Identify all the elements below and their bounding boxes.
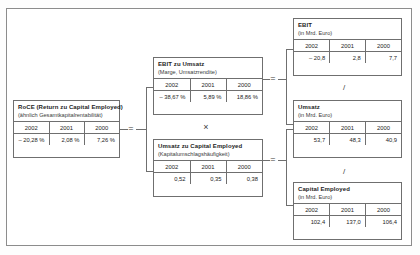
bracket-middle-vertical	[146, 87, 147, 172]
operator-times: ×	[200, 123, 212, 132]
box-ebit-zu-umsatz-table: 2002 2001 2000 – 38,67 % 5,89 % 18,86 %	[154, 79, 262, 102]
cell-value: 137,0	[330, 216, 366, 228]
cell-value: 0,35	[190, 173, 226, 185]
box-ebit-subtitle: (in Mrd. Euro)	[298, 30, 397, 38]
bracket-upper-right-top-arm	[286, 49, 293, 50]
box-ebit-table: 2002 2001 2000 – 20,8 2,8 7,7	[294, 40, 401, 63]
table-row-values: 53,7 48,3 40,9	[294, 134, 401, 146]
cell-value: 2,08 %	[49, 134, 84, 146]
table-row-values: – 20,28 % 2,08 % 7,26 %	[14, 134, 119, 146]
box-umsatz: Umsatz (in Mrd. Euro) 2002 2001 2000 53,…	[293, 100, 402, 158]
connector-equals-to-bracket	[136, 129, 146, 130]
cell-value: 106,4	[365, 216, 401, 228]
cell-value: 48,3	[330, 134, 366, 146]
box-roce-header: RoCE (Return zu Capital Employed) (ähnli…	[14, 101, 119, 122]
operator-divide-upper: /	[339, 83, 349, 92]
cell-year: 2000	[365, 40, 401, 52]
connector-equals-to-bracket-upper	[278, 79, 286, 80]
cell-value: 53,7	[294, 134, 330, 146]
box-capital-employed: Capital Employed (in Mrd. Euro) 2002 200…	[293, 182, 402, 240]
cell-year: 2002	[294, 204, 330, 216]
box-umsatz-zu-capital-employed-title: Umsatz zu Capital Employed	[158, 143, 258, 151]
cell-value: – 20,8	[294, 52, 330, 64]
cell-year: 2000	[365, 204, 401, 216]
bracket-lower-right-vertical	[286, 129, 287, 206]
table-row-years: 2002 2001 2000	[294, 204, 401, 216]
cell-year: 2002	[294, 122, 330, 134]
cell-year: 2000	[84, 122, 119, 134]
box-roce: RoCE (Return zu Capital Employed) (ähnli…	[13, 100, 120, 158]
box-umsatz-zu-capital-employed-header: Umsatz zu Capital Employed (Kapitalumsch…	[154, 140, 262, 161]
box-ebit-zu-umsatz: EBIT zu Umsatz (Marge, Umsatzrendite) 20…	[153, 57, 263, 115]
cell-year: 2000	[226, 79, 262, 91]
box-ebit-header: EBIT (in Mrd. Euro)	[294, 19, 401, 40]
cell-value: 5,89 %	[190, 91, 226, 103]
bracket-upper-right-vertical	[286, 49, 287, 125]
box-roce-title: RoCE (Return zu Capital Employed)	[18, 104, 115, 112]
box-ebit-title: EBIT	[298, 22, 397, 30]
cell-value: 40,9	[365, 134, 401, 146]
cell-year: 2002	[154, 161, 190, 173]
box-capital-employed-subtitle: (in Mrd. Euro)	[298, 194, 397, 202]
cell-year: 2001	[330, 122, 366, 134]
box-umsatz-zu-capital-employed: Umsatz zu Capital Employed (Kapitalumsch…	[153, 139, 263, 197]
box-capital-employed-header: Capital Employed (in Mrd. Euro)	[294, 183, 401, 204]
cell-value: 0,38	[226, 173, 262, 185]
bracket-middle-top-arm	[146, 87, 153, 88]
operator-equals-lower-right: =	[268, 155, 278, 164]
box-umsatz-title: Umsatz	[298, 104, 397, 112]
operator-equals-upper-right: =	[268, 74, 278, 83]
cell-year: 2001	[330, 40, 366, 52]
box-umsatz-zu-capital-employed-subtitle: (Kapitalumschlagshäufigkeit)	[158, 151, 258, 159]
bracket-middle-bottom-arm	[146, 171, 153, 172]
cell-year: 2001	[330, 204, 366, 216]
cell-year: 2002	[154, 79, 190, 91]
bracket-lower-right-top-arm	[286, 129, 293, 130]
box-ebit-zu-umsatz-header: EBIT zu Umsatz (Marge, Umsatzrendite)	[154, 58, 262, 79]
cell-year: 2001	[190, 161, 226, 173]
bracket-upper-right-bottom-arm	[286, 124, 293, 125]
cell-value: 2,8	[330, 52, 366, 64]
cell-year: 2000	[226, 161, 262, 173]
table-row-years: 2002 2001 2000	[294, 122, 401, 134]
box-umsatz-zu-capital-employed-table: 2002 2001 2000 0,52 0,35 0,38	[154, 161, 262, 184]
box-capital-employed-table: 2002 2001 2000 102,4 137,0 106,4	[294, 204, 401, 227]
box-ebit: EBIT (in Mrd. Euro) 2002 2001 2000 – 20,…	[293, 18, 402, 76]
diagram-canvas: = × = = / / RoCE (Return zu Capital Empl…	[0, 0, 420, 255]
box-roce-table: 2002 2001 2000 – 20,28 % 2,08 % 7,26 %	[14, 122, 119, 145]
cell-value: 7,26 %	[84, 134, 119, 146]
table-row-years: 2002 2001 2000	[294, 40, 401, 52]
table-row-years: 2002 2001 2000	[154, 161, 262, 173]
cell-year: 2001	[49, 122, 84, 134]
cell-year: 2001	[190, 79, 226, 91]
box-ebit-zu-umsatz-title: EBIT zu Umsatz	[158, 61, 258, 69]
box-roce-subtitle: (ähnlich Gesamtkapitalrentabilität)	[18, 112, 115, 120]
box-ebit-zu-umsatz-subtitle: (Marge, Umsatzrendite)	[158, 69, 258, 77]
box-umsatz-table: 2002 2001 2000 53,7 48,3 40,9	[294, 122, 401, 145]
cell-value: 7,7	[365, 52, 401, 64]
cell-value: – 20,28 %	[14, 134, 49, 146]
box-capital-employed-title: Capital Employed	[298, 186, 397, 194]
operator-equals-left: =	[126, 124, 136, 133]
cell-year: 2002	[14, 122, 49, 134]
connector-equals-to-bracket-lower	[278, 160, 286, 161]
table-row-values: 102,4 137,0 106,4	[294, 216, 401, 228]
box-umsatz-header: Umsatz (in Mrd. Euro)	[294, 101, 401, 122]
cell-value: 102,4	[294, 216, 330, 228]
bracket-lower-right-bottom-arm	[286, 205, 293, 206]
table-row-years: 2002 2001 2000	[14, 122, 119, 134]
table-row-years: 2002 2001 2000	[154, 79, 262, 91]
cell-value: 18,86 %	[226, 91, 262, 103]
operator-divide-lower: /	[339, 167, 349, 176]
box-umsatz-subtitle: (in Mrd. Euro)	[298, 112, 397, 120]
cell-year: 2002	[294, 40, 330, 52]
cell-value: 0,52	[154, 173, 190, 185]
cell-year: 2000	[365, 122, 401, 134]
table-row-values: – 38,67 % 5,89 % 18,86 %	[154, 91, 262, 103]
table-row-values: 0,52 0,35 0,38	[154, 173, 262, 185]
table-row-values: – 20,8 2,8 7,7	[294, 52, 401, 64]
cell-value: – 38,67 %	[154, 91, 190, 103]
